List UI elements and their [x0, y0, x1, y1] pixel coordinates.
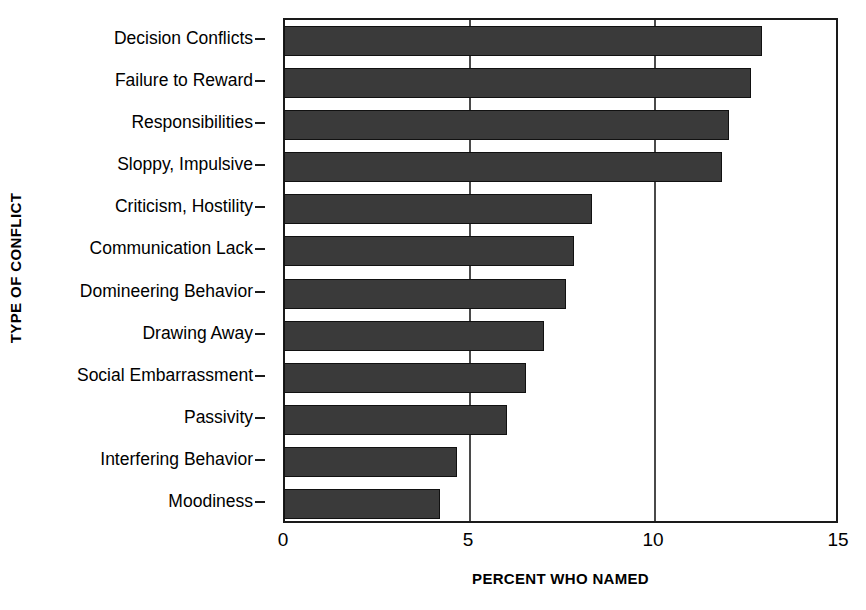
- category-label: Interfering Behavior: [100, 451, 253, 469]
- bar: [284, 321, 544, 351]
- y-axis-tick: [255, 164, 265, 166]
- category-label: Communication Lack: [90, 241, 253, 259]
- bar: [284, 26, 762, 56]
- bar: [284, 236, 574, 266]
- y-axis-tick: [255, 38, 265, 40]
- bar: [284, 152, 722, 182]
- x-axis-tick-label: 15: [827, 529, 848, 551]
- x-axis-tick-label: 5: [463, 529, 474, 551]
- category-label: Passivity: [184, 409, 253, 427]
- x-axis-title: PERCENT WHO NAMED: [283, 570, 838, 587]
- y-axis-tick: [255, 291, 265, 293]
- y-axis-tick: [255, 459, 265, 461]
- category-label: Domineering Behavior: [80, 283, 253, 301]
- y-axis-tick: [255, 248, 265, 250]
- plot-area: [283, 18, 838, 523]
- y-axis-tick: [255, 501, 265, 503]
- category-label: Decision Conflicts: [114, 30, 253, 48]
- x-axis: 051015: [0, 523, 866, 573]
- y-axis-tick: [255, 122, 265, 124]
- y-axis-tick: [255, 206, 265, 208]
- y-axis-tick: [255, 80, 265, 82]
- category-label: Social Embarrassment: [77, 367, 253, 385]
- bar: [284, 110, 729, 140]
- category-label: Criticism, Hostility: [115, 199, 253, 217]
- bar: [284, 68, 751, 98]
- bar: [284, 447, 457, 477]
- category-axis-labels: Decision ConflictsFailure to RewardRespo…: [30, 18, 265, 523]
- y-axis-tick: [255, 375, 265, 377]
- bar: [284, 279, 566, 309]
- horizontal-bar-chart: TYPE OF CONFLICT Decision ConflictsFailu…: [0, 0, 866, 610]
- bar: [284, 489, 440, 519]
- y-axis-tick: [255, 333, 265, 335]
- y-axis-title-text: TYPE OF CONFLICT: [7, 193, 24, 344]
- category-label: Failure to Reward: [115, 72, 253, 90]
- x-axis-tick-label: 0: [278, 529, 289, 551]
- y-axis-tick: [255, 417, 265, 419]
- category-label: Drawing Away: [142, 325, 253, 343]
- bar: [284, 194, 592, 224]
- y-axis-title: TYPE OF CONFLICT: [0, 0, 30, 610]
- x-axis-tick-label: 10: [642, 529, 663, 551]
- category-label: Responsibilities: [131, 114, 253, 132]
- bar: [284, 363, 526, 393]
- category-label: Sloppy, Impulsive: [117, 157, 253, 175]
- bar: [284, 405, 507, 435]
- category-label: Moodiness: [168, 493, 253, 511]
